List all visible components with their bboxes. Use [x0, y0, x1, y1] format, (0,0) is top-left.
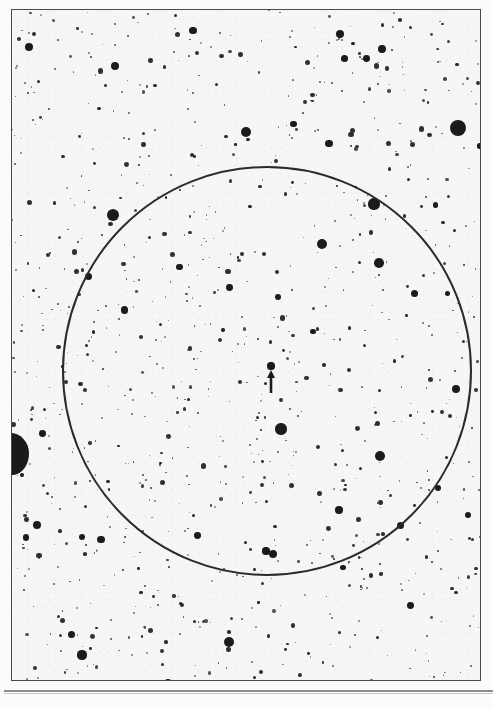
baseline-rule-shadow	[4, 693, 493, 694]
star-point	[275, 680, 277, 681]
target-arrow-marker	[12, 10, 481, 681]
chart-frame	[11, 9, 481, 681]
star-point	[480, 166, 481, 168]
star-point	[480, 471, 481, 473]
star-point	[135, 680, 138, 681]
star-point	[288, 680, 291, 681]
baseline-rule	[4, 690, 493, 692]
finder-chart-page	[0, 0, 493, 709]
